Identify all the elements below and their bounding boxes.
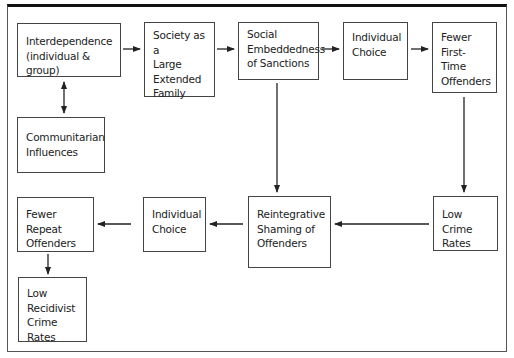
node-reintegrative-shaming: Reintegrative Shaming of Offenders [248, 196, 331, 268]
node-society-extended-family: Society as a Large Extended Family [144, 22, 215, 97]
node-individual-choice-bottom: Individual Choice [143, 197, 206, 252]
node-fewer-repeat-offenders: Fewer Repeat Offenders [17, 197, 94, 252]
node-fewer-first-time-offenders: Fewer First-Time Offenders [432, 22, 497, 93]
node-low-recidivist-crime-rates: Low Recidivist Crime Rates [18, 277, 87, 342]
node-communitarian-influences: Communitarian Influences [17, 117, 105, 173]
node-individual-choice-top: Individual Choice [343, 22, 408, 80]
node-social-embeddedness: Social Embeddedness of Sanctions [238, 22, 319, 80]
node-low-crime-rates: Low Crime Rates [433, 196, 498, 251]
node-interdependence: Interdependence (individual & group) [17, 23, 121, 77]
